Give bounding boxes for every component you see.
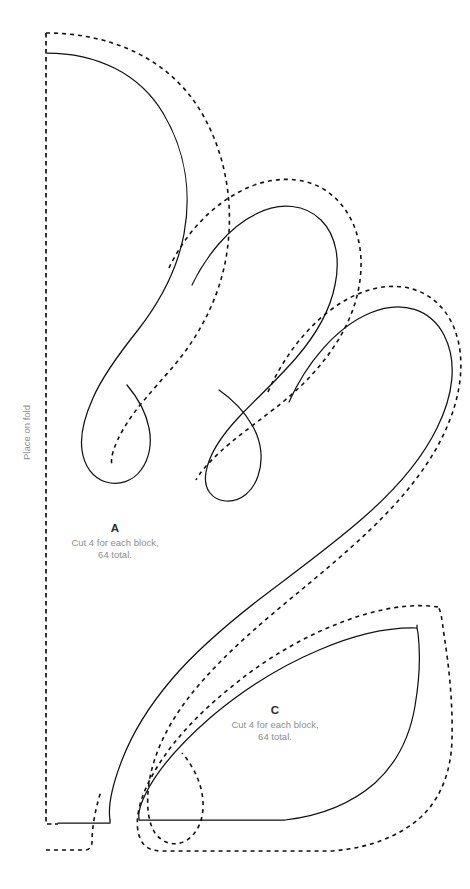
piece-a-note-line-1: Cut 4 for each block, bbox=[59, 537, 171, 549]
piece-a-note-line-2: 64 total. bbox=[59, 549, 171, 561]
pattern-drawing bbox=[0, 0, 470, 889]
petal-a-seam-line bbox=[46, 33, 229, 466]
pattern-page: A Cut 4 for each block, 64 total. C Cut … bbox=[0, 0, 470, 889]
piece-c-note-line-2: 64 total. bbox=[208, 731, 342, 743]
piece-c-letter: C bbox=[208, 703, 342, 717]
large-petal-tail-seam-line bbox=[46, 791, 101, 850]
piece-a-letter: A bbox=[59, 521, 171, 535]
petal-a-cut-line bbox=[47, 53, 187, 483]
petal-b-cut-line bbox=[192, 206, 337, 501]
place-on-fold-label: Place on fold bbox=[21, 385, 32, 481]
fold-line bbox=[46, 33, 58, 824]
petal-b-seam-line bbox=[169, 179, 361, 480]
piece-label-a: A Cut 4 for each block, 64 total. bbox=[59, 521, 171, 561]
piece-label-c: C Cut 4 for each block, 64 total. bbox=[208, 703, 342, 743]
large-petal-tail-cut-line bbox=[58, 820, 110, 823]
piece-c-note-line-1: Cut 4 for each block, bbox=[208, 719, 342, 731]
